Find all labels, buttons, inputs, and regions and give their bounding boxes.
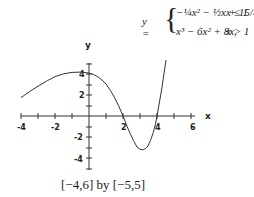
xtick: 4 (155, 123, 161, 132)
curve (21, 60, 166, 150)
plot: -4 -2 2 4 6 4 2 -2 -4 x y (0, 0, 254, 197)
ytick: 4 (79, 70, 85, 79)
x-axis-label: x (205, 111, 211, 121)
ytick: -2 (74, 133, 83, 142)
y-axis-label: y (85, 40, 91, 50)
xtick: -2 (51, 123, 60, 132)
ytick: 2 (79, 91, 85, 100)
xtick: -4 (17, 123, 26, 132)
ytick: -4 (74, 155, 83, 164)
window-caption: [−4,6] by [−5,5] (61, 177, 145, 193)
xtick: 6 (190, 123, 196, 132)
